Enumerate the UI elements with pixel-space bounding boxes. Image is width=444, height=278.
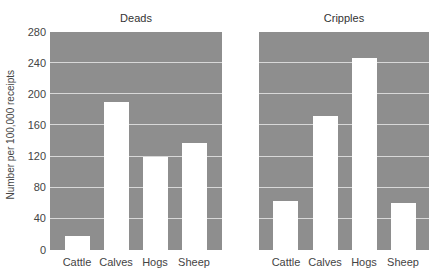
deads-x-label-sheep: Sheep [174,256,214,268]
bar-hogs [143,157,168,250]
y-tick-80: 80 [22,181,46,193]
deads-x-label-calves: Calves [96,256,136,268]
deads-plot-area [50,32,222,250]
gridline [259,156,429,157]
y-tick-240: 240 [22,57,46,69]
cripples-x-label-hogs: Hogs [344,256,384,268]
cripples-plot-area [259,32,429,250]
gridline [259,124,429,125]
chart-cripples-title: Cripples [259,12,429,24]
gridline [50,93,222,94]
bar-calves [313,116,338,250]
deads-x-label-hogs: Hogs [135,256,175,268]
cripples-x-label-calves: Calves [305,256,345,268]
gridline [259,93,429,94]
y-tick-120: 120 [22,150,46,162]
chart-deads-title: Deads [50,12,222,24]
y-tick-280: 280 [22,26,46,38]
bar-sheep [182,143,207,250]
gridline [50,124,222,125]
gridline [259,62,429,63]
gridline [50,62,222,63]
gridline [259,187,429,188]
bar-hogs [352,58,377,250]
y-tick-160: 160 [22,119,46,131]
y-tick-200: 200 [22,88,46,100]
bar-sheep [391,203,416,250]
cripples-x-label-cattle: Cattle [266,256,306,268]
bar-cattle [273,201,298,250]
bar-cattle [65,236,90,250]
cripples-x-label-sheep: Sheep [383,256,423,268]
y-tick-40: 40 [22,212,46,224]
bar-calves [104,102,129,250]
deads-x-label-cattle: Cattle [57,256,97,268]
y-axis-label: Number per 100,000 receipts [5,80,16,200]
y-tick-0: 0 [22,244,46,256]
